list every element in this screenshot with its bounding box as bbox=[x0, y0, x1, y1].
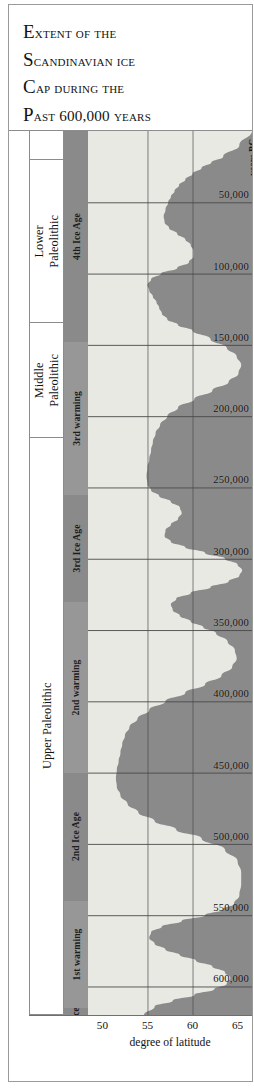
title-line-1-rest: xtent of the bbox=[35, 24, 116, 41]
y-tick-label: 550,000 bbox=[213, 902, 249, 913]
y-tick-label: 150,000 bbox=[213, 332, 249, 343]
title-line-2-rest: candinavian ice bbox=[34, 52, 135, 69]
y-tick-label: 100,000 bbox=[213, 261, 249, 272]
epoch-label: Upper Paleolithic bbox=[40, 683, 55, 769]
x-axis-title: degree of latitude bbox=[88, 1036, 252, 1049]
title-line-4-rest: ast 600,000 years bbox=[34, 107, 151, 124]
title-line-2-cap: S bbox=[23, 49, 34, 70]
title-line-2: Scandinavian ice bbox=[23, 47, 244, 75]
climate-phase-column: 4th Ice Age3rd warming3rd Ice Age2nd war… bbox=[64, 131, 88, 1015]
y-tick-label: 300,000 bbox=[213, 546, 249, 557]
x-tick-label: 55 bbox=[142, 1019, 153, 1031]
x-tick-label: 60 bbox=[187, 1019, 198, 1031]
climate-phase-label: 1st Ice Age bbox=[71, 1008, 82, 1015]
y-tick-label: 350,000 bbox=[213, 617, 249, 628]
y-tick-label: 200,000 bbox=[213, 403, 249, 414]
plot-area: 50,000100,000150,000200,000250,000300,00… bbox=[88, 131, 252, 1015]
climate-phase-cell: 2nd warming bbox=[64, 602, 88, 773]
title-line-3-cap: C bbox=[23, 76, 36, 97]
climate-phase-cell: 1st Ice Age bbox=[64, 1008, 88, 1015]
y-tick-label: 600,000 bbox=[213, 973, 249, 984]
climate-phase-cell: 3rd Ice Age bbox=[64, 495, 88, 602]
x-axis: 50556065 bbox=[88, 1015, 252, 1038]
climate-phase-cell: 2nd Ice Age bbox=[64, 773, 88, 901]
y-tick-label: 250,000 bbox=[213, 474, 249, 485]
title-line-4: Past 600,000 years bbox=[23, 102, 244, 130]
left-margin bbox=[9, 131, 29, 1015]
title-line-4-cap: P bbox=[23, 104, 34, 125]
epoch-cell: Upper Paleolithic bbox=[30, 438, 65, 1015]
epoch-cell: MiddlePaleolithic bbox=[30, 323, 65, 437]
epoch-label: LowerPaleolithic bbox=[32, 215, 63, 268]
climate-phase-label: 2nd warming bbox=[71, 659, 82, 715]
title-line-1-cap: E bbox=[23, 21, 35, 42]
climate-phase-label: 3rd Ice Age bbox=[71, 524, 82, 572]
figure-title: Extent of the Scandinavian ice Cap durin… bbox=[9, 5, 252, 131]
epoch-label: MiddlePaleolithic bbox=[32, 354, 63, 407]
epoch-cell-blank bbox=[30, 131, 65, 160]
epoch-column: LowerPaleolithicMiddlePaleolithicUpper P… bbox=[29, 131, 64, 1015]
y-tick-label: 50,000 bbox=[219, 189, 249, 200]
y-tick-label: 500,000 bbox=[213, 831, 249, 842]
x-tick-label: 50 bbox=[97, 1019, 108, 1031]
climate-phase-cell: 4th Ice Age bbox=[64, 131, 88, 342]
title-line-1: Extent of the bbox=[23, 19, 244, 47]
title-line-3: Cap during the bbox=[23, 74, 244, 102]
figure-root: Extent of the Scandinavian ice Cap durin… bbox=[0, 0, 254, 1088]
climate-phase-label: 3rd warming bbox=[71, 391, 82, 446]
climate-phase-label: 2nd Ice Age bbox=[71, 812, 82, 861]
y-tick-label: 400,000 bbox=[213, 688, 249, 699]
climate-phase-cell: 1st warming bbox=[64, 901, 88, 1008]
x-tick-label: 65 bbox=[232, 1019, 243, 1031]
climate-phase-label: 1st warming bbox=[71, 928, 82, 980]
axis-left-rule bbox=[29, 1015, 88, 1016]
climate-phase-label: 4th Ice Age bbox=[71, 213, 82, 260]
y-tick-label: 450,000 bbox=[213, 760, 249, 771]
epoch-cell: LowerPaleolithic bbox=[30, 160, 65, 324]
y-axis-unit-label: years BC bbox=[248, 139, 252, 176]
title-line-3-rest: ap during the bbox=[36, 79, 124, 96]
climate-phase-cell: 3rd warming bbox=[64, 342, 88, 495]
chart-body: LowerPaleolithicMiddlePaleolithicUpper P… bbox=[9, 131, 252, 1082]
